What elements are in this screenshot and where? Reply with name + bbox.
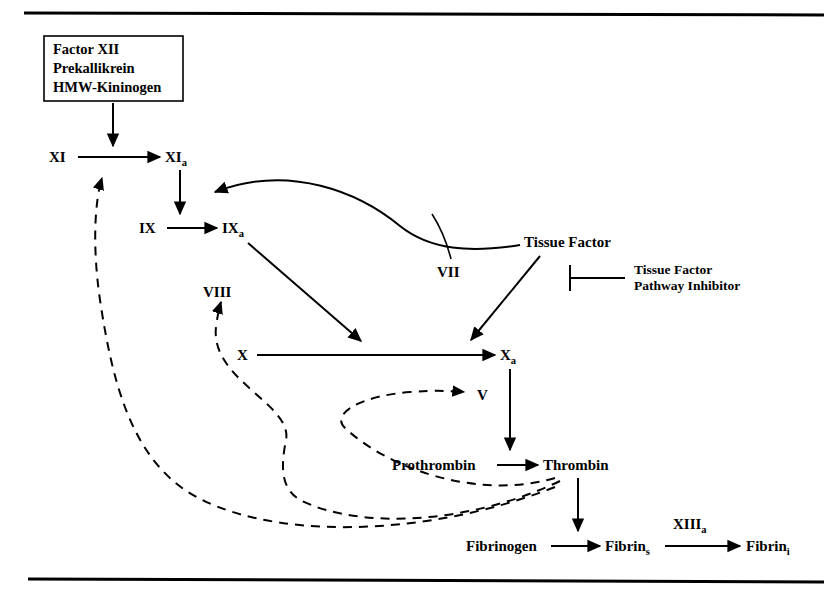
node-x-label: X <box>237 347 248 363</box>
tfpi-label-line-1: Tissue Factor <box>634 262 712 277</box>
node-viii-label: VIII <box>203 284 232 300</box>
node-tissue-factor-label: Tissue Factor <box>524 234 611 250</box>
node-prothrombin: Prothrombin <box>392 457 476 473</box>
node-thrombin-label: Thrombin <box>543 457 609 473</box>
node-vii-label: VII <box>437 264 460 280</box>
tissue-factor-to-ixa-curve <box>215 180 520 249</box>
node-xia: XIa <box>165 149 188 168</box>
figure-canvas: Factor XII Prekallikrein HMW-Kininogen X… <box>0 0 834 595</box>
node-fibrinogen: Fibrinogen <box>466 538 537 554</box>
node-prothrombin-label: Prothrombin <box>392 457 476 473</box>
node-fibrin-s-label: Fibrin <box>605 538 646 554</box>
node-thrombin: Thrombin <box>543 457 609 473</box>
node-ix-label: IX <box>139 220 156 236</box>
tfpi-label-line-2: Pathway Inhibitor <box>634 278 740 293</box>
thrombin-feedback-to-xi-dashed <box>95 178 555 527</box>
ixa-to-xa-arrow <box>248 243 361 341</box>
node-xiiia-label: XIII <box>673 516 702 532</box>
node-xi-label: XI <box>49 149 66 165</box>
initiation-box-line-3: HMW-Kininogen <box>53 79 161 95</box>
node-x: X <box>237 347 248 363</box>
node-viii: VIII <box>203 284 232 300</box>
node-v: V <box>477 387 488 403</box>
top-horizontal-rule <box>24 13 824 15</box>
node-fibrin-i-label: Fibrin <box>746 538 787 554</box>
node-xia-subscript: a <box>182 157 188 168</box>
node-fibrinogen-label: Fibrinogen <box>466 538 537 554</box>
node-xiiia: XIIIa <box>673 516 707 535</box>
initiation-box-line-2: Prekallikrein <box>53 60 135 76</box>
node-ixa-subscript: a <box>239 228 245 239</box>
coagulation-cascade-diagram: Factor XII Prekallikrein HMW-Kininogen X… <box>0 0 834 595</box>
node-xia-label: XI <box>165 149 182 165</box>
node-fibrin-i-subscript: i <box>787 546 790 557</box>
vii-to-curve-connector <box>432 214 451 259</box>
bottom-horizontal-rule <box>28 579 824 582</box>
node-fibrin-i: Fibrini <box>746 538 790 557</box>
node-vii: VII <box>437 264 460 280</box>
node-ixa-label: IX <box>222 220 239 236</box>
node-v-label: V <box>477 387 488 403</box>
node-xiiia-subscript: a <box>701 524 707 535</box>
node-xa-label: X <box>500 347 511 363</box>
initiation-box-line-1: Factor XII <box>53 41 120 57</box>
node-xa-subscript: a <box>511 355 517 366</box>
node-ixa: IXa <box>222 220 245 239</box>
tissue-factor-to-xa-arrow <box>471 256 540 340</box>
thrombin-feedback-to-viii-dashed <box>216 302 560 519</box>
node-xi: XI <box>49 149 66 165</box>
node-fibrin-s-subscript: s <box>646 546 650 557</box>
node-fibrin-s: Fibrins <box>605 538 650 557</box>
node-xa: Xa <box>500 347 517 366</box>
node-tissue-factor: Tissue Factor <box>524 234 611 250</box>
node-ix: IX <box>139 220 156 236</box>
